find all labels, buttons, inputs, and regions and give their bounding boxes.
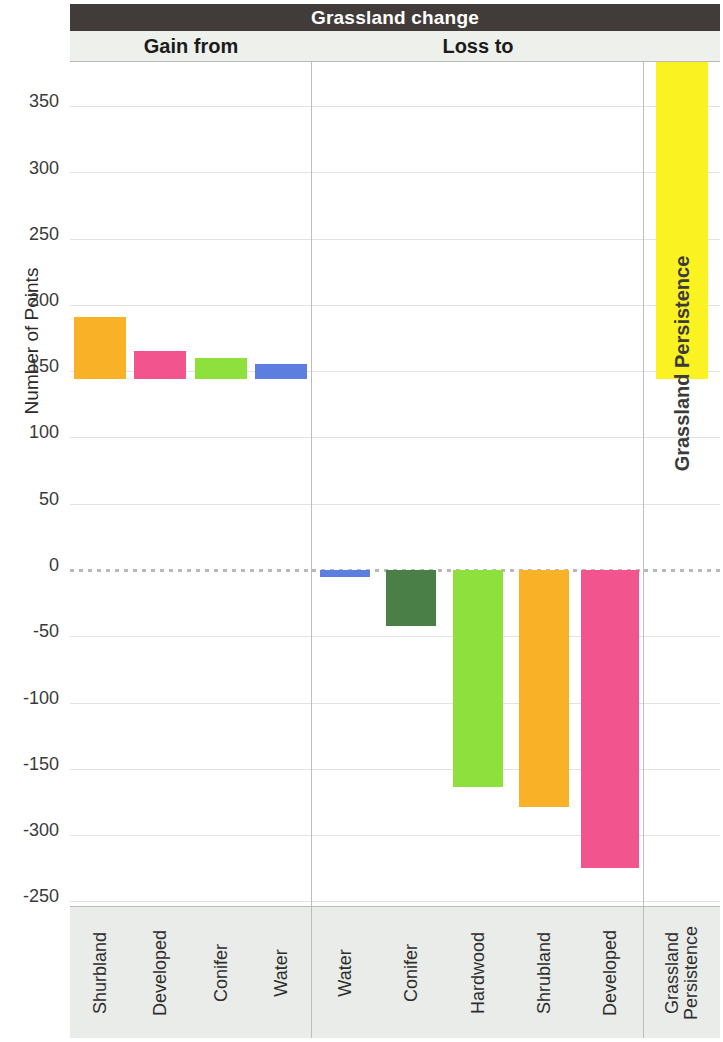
panel-gain-from [70, 62, 312, 906]
x-tick-slot-gain-1: Shurbland [70, 907, 130, 1038]
bar-loss-water[interactable] [320, 570, 370, 577]
bar-slot-shurbland [70, 62, 130, 906]
y-tick-n150: -150 [23, 754, 59, 775]
bar-slot-grassland-persistence: Grassland Persistence [644, 62, 720, 906]
grassland-change-chart: Number of Points 350 300 250 200 150 100… [0, 0, 723, 1042]
bar-gain-conifer[interactable] [195, 358, 247, 379]
chart-title-strip: Grassland change [70, 4, 720, 31]
bar-gain-shurbland[interactable] [74, 317, 126, 379]
x-tick-label-conifer: Conifer [401, 943, 422, 1001]
y-tick-250: 250 [29, 224, 59, 245]
x-tick-slot-gain-2: Developed [130, 907, 190, 1038]
bar-slot-water [251, 62, 311, 906]
x-tick-slot-persistence-1: Grassland Persistence [644, 907, 720, 1038]
bar-group-loss [312, 62, 643, 906]
y-tick-0: 0 [49, 555, 59, 576]
x-tick-label-shurbland: Shurbland [90, 931, 111, 1013]
bar-slot-developed [577, 62, 643, 906]
facet-header-persistence [644, 31, 720, 61]
bar-slot-hardwood [444, 62, 510, 906]
x-tick-label-line2: Persistence [681, 925, 701, 1019]
x-tick-slot-gain-4: Water [251, 907, 311, 1038]
x-tick-slot-loss-5: Developed [577, 907, 643, 1038]
x-tick-label-hardwood: Hardwood [467, 931, 488, 1013]
bar-gain-water[interactable] [255, 364, 307, 379]
bar-inline-label-persistence: Grassland Persistence [671, 256, 694, 472]
bar-slot-shrubland [511, 62, 577, 906]
y-tick-n50: -50 [33, 621, 59, 642]
x-tick-label-developed: Developed [150, 929, 171, 1015]
bar-loss-hardwood[interactable] [453, 570, 503, 787]
y-tick-350: 350 [29, 91, 59, 112]
facet-header-loss: Loss to [312, 31, 644, 61]
bar-slot-conifer [191, 62, 251, 906]
x-tick-label-shrubland: Shrubland [533, 931, 554, 1013]
x-tick-slot-gain-3: Conifer [191, 907, 251, 1038]
bar-slot-conifer [378, 62, 444, 906]
y-tick-n100: -100 [23, 688, 59, 709]
x-tick-label-line1: Grassland [662, 931, 682, 1013]
y-tick-200: 200 [29, 290, 59, 311]
x-tick-label-water: Water [270, 949, 291, 996]
bar-loss-conifer[interactable] [386, 570, 436, 626]
plot-panels: Grassland Persistence [70, 61, 720, 906]
x-axis-facet-gain: Shurbland Developed Conifer Water [70, 906, 312, 1038]
chart-area: Grassland change Gain from Loss to [70, 4, 720, 1038]
bar-loss-shrubland[interactable] [519, 570, 569, 807]
bar-slot-developed [130, 62, 190, 906]
facet-header-strip: Gain from Loss to [70, 31, 720, 61]
x-tick-label-grassland-persistence: Grassland Persistence [663, 918, 701, 1028]
x-axis-label-strip: Shurbland Developed Conifer Water Water … [70, 906, 720, 1038]
x-tick-label-water: Water [335, 949, 356, 996]
x-axis-facet-loss: Water Conifer Hardwood Shrubland Develop… [312, 906, 644, 1038]
x-tick-slot-loss-4: Shrubland [511, 907, 577, 1038]
x-axis-facet-persistence: Grassland Persistence [644, 906, 720, 1038]
bar-loss-developed[interactable] [581, 570, 639, 868]
x-tick-label-developed: Developed [599, 929, 620, 1015]
bar-slot-water [312, 62, 378, 906]
x-tick-slot-loss-1: Water [312, 907, 378, 1038]
x-tick-label-conifer: Conifer [210, 943, 231, 1001]
facet-header-gain: Gain from [70, 31, 312, 61]
panel-grassland-persistence: Grassland Persistence [644, 62, 720, 906]
x-tick-slot-loss-2: Conifer [378, 907, 444, 1038]
bar-group-gain [70, 62, 311, 906]
y-tick-50: 50 [39, 489, 59, 510]
y-axis-tick-labels: 350 300 250 200 150 100 50 0 -50 -100 -1… [0, 0, 68, 1042]
y-tick-150: 150 [29, 356, 59, 377]
bar-gain-developed[interactable] [134, 351, 186, 379]
y-tick-n300: -300 [23, 820, 59, 841]
x-tick-slot-loss-3: Hardwood [444, 907, 510, 1038]
y-tick-n250: -250 [23, 886, 59, 907]
bar-group-persistence: Grassland Persistence [644, 62, 720, 906]
panel-loss-to [312, 62, 644, 906]
y-tick-300: 300 [29, 158, 59, 179]
y-tick-100: 100 [29, 422, 59, 443]
